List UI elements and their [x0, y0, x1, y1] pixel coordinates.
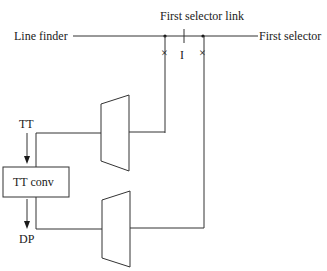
link-marker-label: I [180, 48, 184, 62]
cross-mark-right: × [199, 46, 206, 60]
upper-switch-trapezoid [101, 95, 129, 171]
tt-label: TT [19, 117, 34, 131]
dp-label: DP [19, 232, 35, 246]
cross-mark-left: × [161, 46, 168, 60]
tt-conv-label: TT conv [13, 175, 54, 189]
lower-switch-trapezoid [102, 191, 130, 267]
arrow-down-icon [24, 156, 30, 164]
first-selector-label: First selector [259, 29, 321, 43]
line-finder-label: Line finder [14, 29, 68, 43]
first-selector-link-label: First selector link [160, 9, 244, 23]
arrow-down-icon [24, 221, 30, 229]
telephone-switching-diagram: First selector link Line finder First se… [0, 0, 327, 271]
